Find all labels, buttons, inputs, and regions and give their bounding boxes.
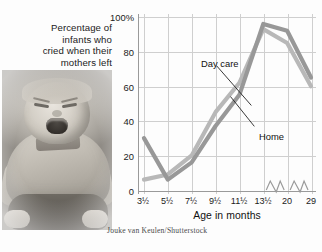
crying-infant-photo [2,70,112,230]
y-tick-label-80: 80 [104,46,138,57]
y-tick-label-0: 0 [104,186,138,197]
x-axis-title: Age in months [138,210,316,221]
x-tick-label-4: 11½ [231,196,247,206]
x-tick-label-6: 20 [282,196,292,206]
y-tick-label-40: 40 [104,116,138,127]
series-label-home: Home [259,131,284,142]
chart-title-line-1: Percentage of [4,22,112,34]
y-tick-label-100: 100% [104,12,138,23]
x-tick-label-2: 7½ [185,196,197,206]
chart-title-line-3: cried when their [4,45,112,57]
photo-credit: Jouke van Keulen/Shutterstock [107,226,207,235]
x-tick-label-7: 29 [306,196,316,206]
y-axis-labels: 020406080100% [104,14,138,194]
y-tick-label-20: 20 [104,151,138,162]
series-line-day-care [144,29,311,180]
photo-vignette [2,70,112,230]
line-chart: 020406080100% Day care Home 3½5½7½9½11½1… [104,12,320,224]
figure-root: Percentage of infants who cried when the… [0,0,322,252]
x-tick-label-3: 9½ [209,196,221,206]
axis-break-zigzag-0 [266,181,284,192]
plot-area: Day care Home [138,14,316,194]
plot-svg [139,14,316,193]
x-tick-label-1: 5½ [161,196,173,206]
x-tick-label-5: 13½ [254,196,271,206]
series-label-day-care: Day care [201,58,239,69]
chart-title-line-2: infants who [4,34,112,46]
y-tick-label-60: 60 [104,81,138,92]
x-tick-label-0: 3½ [137,196,149,206]
series-line-home [144,24,311,180]
chart-title-line-4: mothers left [4,57,112,69]
x-axis-labels: 3½5½7½9½11½13½2029 [138,196,316,210]
leader-line-home [230,97,254,127]
axis-break-zigzag-1 [290,181,308,192]
chart-title: Percentage of infants who cried when the… [4,22,112,68]
